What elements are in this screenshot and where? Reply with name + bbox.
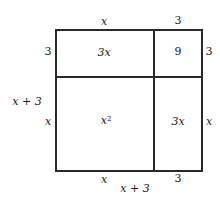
cell-top-right: 9 [175, 46, 182, 58]
bottom-label-3: 3 [175, 173, 182, 185]
vertical-divider [153, 29, 155, 172]
left-label-total: x + 3 [12, 96, 41, 108]
cell-bottom-left-exponent: 2 [107, 115, 111, 123]
box-right-edge [201, 29, 203, 172]
box-top-edge [55, 29, 203, 31]
top-label-x: x [101, 16, 107, 28]
bottom-label-x: x [101, 174, 107, 186]
left-label-3: 3 [45, 46, 52, 58]
box-left-edge [55, 29, 57, 172]
cell-bottom-right: 3x [171, 116, 184, 128]
cell-top-left: 3x [97, 47, 110, 59]
bottom-label-total: x + 3 [120, 183, 149, 195]
top-label-3: 3 [175, 15, 182, 27]
horizontal-divider [55, 76, 203, 78]
right-label-3: 3 [206, 46, 213, 58]
cell-bottom-left: x2 [101, 115, 112, 127]
right-label-x: x [206, 116, 212, 128]
left-label-x: x [45, 116, 51, 128]
